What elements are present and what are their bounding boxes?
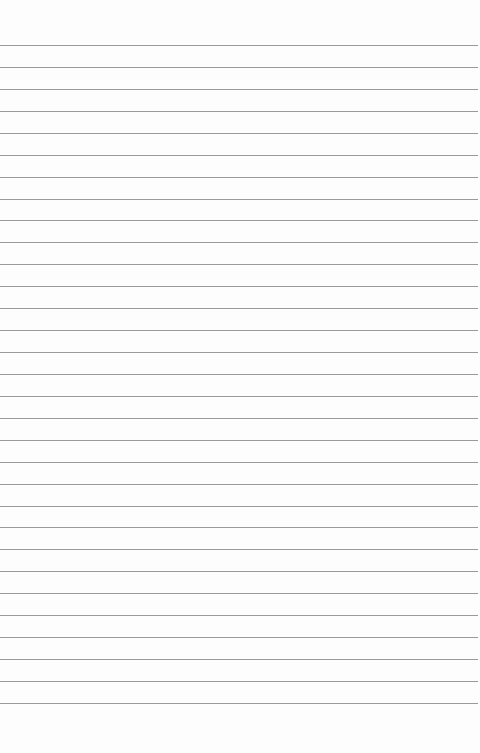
ruled-line [0,418,478,419]
ruled-line [0,703,478,704]
ruled-line [0,242,478,243]
ruled-line [0,549,478,550]
ruled-line [0,199,478,200]
ruled-line [0,506,478,507]
ruled-line [0,352,478,353]
ruled-line [0,637,478,638]
ruled-line [0,286,478,287]
ruled-line [0,681,478,682]
ruled-line [0,67,478,68]
ruled-line [0,264,478,265]
ruled-line [0,308,478,309]
ruled-line [0,462,478,463]
ruled-line [0,440,478,441]
ruled-line [0,396,478,397]
ruled-line [0,615,478,616]
ruled-line [0,177,478,178]
ruled-line [0,484,478,485]
ruled-line [0,89,478,90]
ruled-line [0,374,478,375]
ruled-line [0,220,478,221]
ruled-line [0,571,478,572]
ruled-line [0,155,478,156]
lined-paper-sheet [0,0,480,753]
ruled-line [0,527,478,528]
ruled-line [0,659,478,660]
ruled-line [0,593,478,594]
ruled-line [0,111,478,112]
ruled-line [0,330,478,331]
ruled-line [0,45,478,46]
ruled-line [0,133,478,134]
